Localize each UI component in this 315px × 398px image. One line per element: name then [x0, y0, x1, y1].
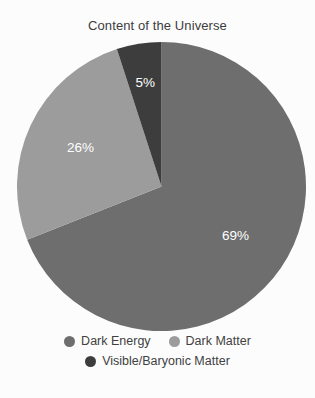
pie-slices — [17, 42, 306, 331]
legend-swatch-icon-dark-energy — [64, 336, 75, 347]
pie-label-visible-baryonic-matter: 5% — [135, 75, 155, 90]
legend-item-visible-baryonic-matter[interactable]: Visible/Baryonic Matter — [85, 354, 230, 368]
pie-svg: 69% 26% 5% — [17, 42, 306, 331]
legend-label-dark-matter: Dark Matter — [186, 334, 251, 348]
legend-item-dark-matter[interactable]: Dark Matter — [169, 334, 251, 348]
pie-label-dark-energy: 69% — [222, 228, 249, 243]
legend-swatch-icon-visible-baryonic-matter — [85, 356, 96, 367]
chart-title: Content of the Universe — [0, 18, 315, 33]
pie-label-dark-matter: 26% — [67, 140, 94, 155]
legend-label-visible-baryonic-matter: Visible/Baryonic Matter — [102, 354, 230, 368]
legend-label-dark-energy: Dark Energy — [81, 334, 150, 348]
legend-item-dark-energy[interactable]: Dark Energy — [64, 334, 150, 348]
pie-chart-plot-area: 69% 26% 5% — [17, 42, 306, 331]
legend-row-2: Visible/Baryonic Matter — [0, 354, 315, 368]
pie-chart-card: Content of the Universe 69% 26% 5% Dark … — [0, 0, 315, 398]
legend-row-1: Dark Energy Dark Matter — [0, 334, 315, 348]
legend-swatch-icon-dark-matter — [169, 336, 180, 347]
chart-legend: Dark Energy Dark Matter Visible/Baryonic… — [0, 334, 315, 374]
